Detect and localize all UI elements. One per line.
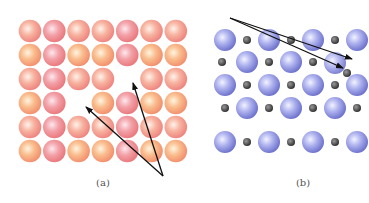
atom-sphere xyxy=(116,20,139,43)
atom-sphere xyxy=(92,92,115,115)
small-ion xyxy=(353,104,361,112)
atom-sphere xyxy=(140,44,163,67)
small-ion xyxy=(243,81,251,89)
large-ion xyxy=(258,131,280,153)
atom-sphere xyxy=(43,116,66,139)
small-ion xyxy=(287,81,295,89)
atom-sphere xyxy=(92,20,115,43)
atom-sphere xyxy=(92,68,115,91)
large-ion xyxy=(302,74,324,96)
large-ion xyxy=(346,74,368,96)
atom-sphere xyxy=(19,116,42,139)
atom-sphere xyxy=(116,92,139,115)
atom-sphere xyxy=(165,92,188,115)
figure: (a) (b) xyxy=(0,0,369,203)
atom-sphere xyxy=(140,20,163,43)
atom-sphere xyxy=(67,116,90,139)
small-ion xyxy=(265,104,273,112)
atom-sphere xyxy=(165,44,188,67)
atom-sphere xyxy=(165,140,188,163)
small-ion xyxy=(221,104,229,112)
atom-sphere xyxy=(116,44,139,67)
large-ion xyxy=(214,74,236,96)
panel-b-ionic-lattice xyxy=(214,18,368,153)
diagram-canvas xyxy=(0,0,369,203)
large-ion xyxy=(302,131,324,153)
small-ion xyxy=(243,36,251,44)
atom-sphere xyxy=(43,20,66,43)
atom-sphere xyxy=(92,116,115,139)
atom-sphere xyxy=(43,92,66,115)
small-ion xyxy=(265,58,273,66)
atom-sphere xyxy=(67,140,90,163)
atom-sphere xyxy=(19,20,42,43)
large-ion xyxy=(302,29,324,51)
atom-sphere xyxy=(43,140,66,163)
atom-sphere xyxy=(116,116,139,139)
large-ion xyxy=(346,29,368,51)
caption-b: (b) xyxy=(296,177,310,188)
atom-sphere xyxy=(165,116,188,139)
large-ion xyxy=(214,131,236,153)
large-ion xyxy=(280,51,302,73)
small-ion xyxy=(309,58,317,66)
atom-sphere xyxy=(67,68,90,91)
atom-sphere xyxy=(165,20,188,43)
atom-sphere xyxy=(140,92,163,115)
atom-sphere xyxy=(19,92,42,115)
atom-sphere xyxy=(43,44,66,67)
small-ion xyxy=(243,138,251,146)
small-ion xyxy=(331,138,339,146)
atom-sphere xyxy=(140,116,163,139)
atom-sphere xyxy=(92,140,115,163)
atom-sphere xyxy=(67,44,90,67)
atom-sphere xyxy=(19,140,42,163)
atom-sphere xyxy=(165,68,188,91)
large-ion xyxy=(280,97,302,119)
large-ion xyxy=(214,29,236,51)
large-ion xyxy=(324,97,346,119)
atom-sphere xyxy=(140,68,163,91)
small-ion xyxy=(287,138,295,146)
atom-sphere xyxy=(43,68,66,91)
atom-sphere xyxy=(67,20,90,43)
caption-a: (a) xyxy=(96,177,110,188)
atom-sphere xyxy=(19,68,42,91)
large-ion xyxy=(346,131,368,153)
small-ion xyxy=(309,104,317,112)
small-ion xyxy=(218,58,226,66)
large-ion xyxy=(236,51,258,73)
small-ion xyxy=(331,81,339,89)
panel-a-vacancy-lattice xyxy=(19,20,187,176)
interstitial-small-ion xyxy=(343,69,351,77)
atom-sphere xyxy=(19,44,42,67)
atom-sphere xyxy=(92,44,115,67)
large-ion xyxy=(236,97,258,119)
small-ion xyxy=(331,36,339,44)
large-ion xyxy=(258,74,280,96)
